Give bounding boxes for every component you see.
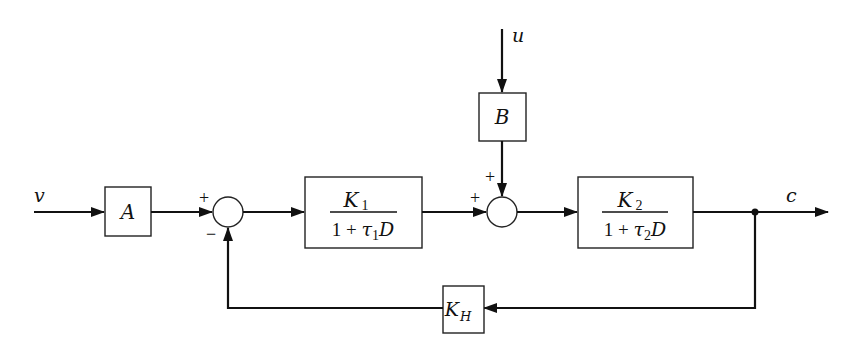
output-c-signal: c: [693, 184, 828, 216]
summing-junction-2: + +: [470, 167, 517, 227]
sum2-plus-sign-top: +: [485, 167, 495, 187]
input-u-label: u: [512, 24, 524, 46]
block-a: A: [105, 187, 151, 236]
sum1-plus-sign: +: [199, 188, 209, 208]
input-u-signal: u: [502, 24, 524, 92]
sum2-plus-sign-left: +: [470, 188, 480, 208]
g2-denominator: 1 + τ2D: [604, 218, 666, 243]
summing-junction-1: + −: [199, 188, 243, 244]
g1-denominator: 1 + τ1D: [332, 218, 394, 243]
block-a-label: A: [119, 200, 135, 224]
block-b-label: B: [494, 105, 510, 129]
sum1-minus-sign: −: [206, 224, 216, 244]
input-v-signal: v: [34, 184, 104, 212]
block-diagram: v A + − K1 1 + τ1D u B + +: [0, 0, 858, 356]
input-v-label: v: [34, 184, 45, 206]
block-b: B: [479, 93, 526, 141]
sum2-circle: [487, 197, 517, 227]
block-g1: K1 1 + τ1D: [305, 177, 422, 248]
block-g2: K2 1 + τ2D: [578, 177, 693, 248]
sum1-circle: [213, 197, 243, 227]
output-c-label: c: [786, 184, 797, 206]
